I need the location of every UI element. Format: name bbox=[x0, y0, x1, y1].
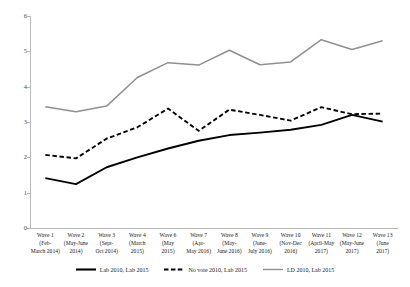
y-axis-tick-label: 5 bbox=[24, 48, 27, 55]
legend-item[interactable]: Lab 2010, Lab 2015 bbox=[76, 266, 149, 273]
y-axis-tick-label: 2 bbox=[24, 154, 27, 161]
x-axis-category-label: Wave 13 (June 2017) bbox=[363, 231, 402, 255]
x-axis-line bbox=[30, 228, 398, 229]
plot-area bbox=[30, 16, 398, 228]
legend-swatch bbox=[164, 266, 184, 273]
chart-legend: Lab 2010, Lab 2015No vote 2010, Lab 2015… bbox=[0, 266, 410, 273]
series-line bbox=[45, 107, 382, 158]
series-line bbox=[45, 115, 382, 184]
series-lines bbox=[30, 16, 398, 228]
legend-swatch bbox=[263, 266, 283, 273]
y-axis-tick bbox=[27, 228, 30, 229]
legend-label: LD 2010, Lab 2015 bbox=[287, 267, 334, 273]
legend-swatch bbox=[76, 266, 96, 273]
y-axis-tick-label: 6 bbox=[24, 13, 27, 20]
legend-item[interactable]: LD 2010, Lab 2015 bbox=[263, 266, 334, 273]
legend-label: Lab 2010, Lab 2015 bbox=[100, 267, 149, 273]
x-axis-labels: Wave 1 (Feb- March 2014)Wave 2 (May-June… bbox=[30, 231, 398, 261]
line-chart: 0123456 Wave 1 (Feb- March 2014)Wave 2 (… bbox=[0, 0, 410, 287]
series-line bbox=[45, 40, 382, 112]
y-axis-tick-label: 4 bbox=[24, 83, 27, 90]
y-axis-tick-label: 1 bbox=[24, 189, 27, 196]
legend-item[interactable]: No vote 2010, Lab 2015 bbox=[164, 266, 247, 273]
legend-label: No vote 2010, Lab 2015 bbox=[188, 267, 247, 273]
y-axis-tick-label: 3 bbox=[24, 119, 27, 126]
